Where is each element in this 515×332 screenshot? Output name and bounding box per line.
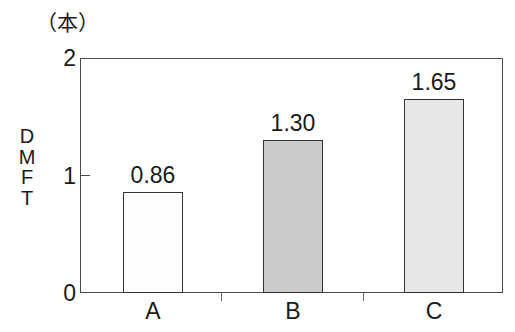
- x-axis-separator-tick-1: [221, 293, 222, 301]
- y-axis-tick-label-0: 0: [52, 281, 76, 305]
- x-axis-category-label-c: C: [379, 298, 489, 324]
- y-axis-tick-label-2: 2: [52, 46, 76, 70]
- y-axis-title-char-f: F: [14, 167, 40, 188]
- bar-b: [263, 140, 323, 293]
- y-axis-tick-label-1: 1: [52, 164, 76, 188]
- x-axis-category-label-a: A: [98, 298, 208, 324]
- y-axis-title-char-m: M: [14, 147, 40, 168]
- y-axis-tick-mark-1: [81, 175, 90, 176]
- bar-a: [123, 192, 183, 293]
- x-axis-category-label-b: B: [238, 298, 348, 324]
- unit-label: （本）: [36, 10, 99, 36]
- x-axis-separator-tick-2: [363, 293, 364, 301]
- y-axis-title-char-t: T: [14, 188, 40, 209]
- dmft-bar-chart: （本） D M F T 2 1 0 0.86 1.30 1.65 A B C: [0, 0, 515, 332]
- bar-c: [404, 99, 464, 293]
- bar-value-label-b: 1.30: [238, 111, 348, 136]
- bar-value-label-c: 1.65: [379, 70, 489, 95]
- y-axis-title: D M F T: [14, 126, 40, 208]
- y-axis-title-char-d: D: [14, 126, 40, 147]
- bar-value-label-a: 0.86: [98, 163, 208, 188]
